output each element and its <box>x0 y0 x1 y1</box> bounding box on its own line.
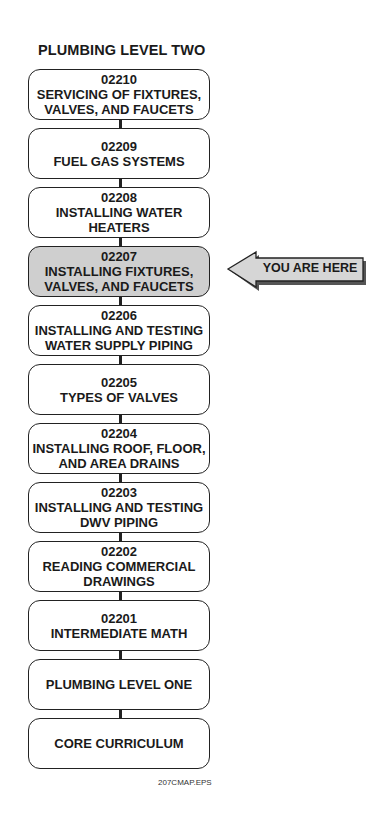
module-box: CORE CURRICULUM <box>28 718 210 769</box>
module-box: 02206INSTALLING AND TESTINGWATER SUPPLY … <box>28 305 210 356</box>
module-title-line: VALVES, AND FAUCETS <box>44 279 193 294</box>
module-box: PLUMBING LEVEL ONE <box>28 659 210 710</box>
module-box: 02210SERVICING OF FIXTURES,VALVES, AND F… <box>28 69 210 120</box>
module-code: 02205 <box>101 375 137 390</box>
module-box: 02209FUEL GAS SYSTEMS <box>28 128 210 179</box>
module-box: 02202READING COMMERCIALDRAWINGS <box>28 541 210 592</box>
module-title-line: VALVES, AND FAUCETS <box>44 102 193 117</box>
module-code: 02208 <box>101 190 137 205</box>
module-title-line: PLUMBING LEVEL ONE <box>46 677 192 692</box>
module-code: 02207 <box>101 249 137 264</box>
module-title-line: INSTALLING AND TESTING <box>35 323 203 338</box>
file-label: 207CMAP.EPS <box>158 778 212 787</box>
module-title-line: INSTALLING WATER <box>56 205 183 220</box>
module-title-line: INSTALLING FIXTURES, <box>45 264 194 279</box>
module-title-line: INSTALLING AND TESTING <box>35 500 203 515</box>
module-title-line: INTERMEDIATE MATH <box>51 626 188 641</box>
module-box: 02203INSTALLING AND TESTINGDWV PIPING <box>28 482 210 533</box>
module-code: 02202 <box>101 544 137 559</box>
module-title-line: CORE CURRICULUM <box>54 736 183 751</box>
module-title-line: WATER SUPPLY PIPING <box>45 338 193 353</box>
module-code: 02201 <box>101 611 137 626</box>
module-title-line: FUEL GAS SYSTEMS <box>53 154 184 169</box>
module-title-line: INSTALLING ROOF, FLOOR, <box>32 441 205 456</box>
module-title-line: HEATERS <box>88 220 149 235</box>
you-are-here-label: YOU ARE HERE <box>258 261 362 275</box>
module-code: 02206 <box>101 308 137 323</box>
module-code: 02209 <box>101 139 137 154</box>
module-title-line: DRAWINGS <box>83 574 155 589</box>
module-code: 02203 <box>101 485 137 500</box>
module-box: 02204INSTALLING ROOF, FLOOR,AND AREA DRA… <box>28 423 210 474</box>
module-box: 02208INSTALLING WATERHEATERS <box>28 187 210 238</box>
module-box-current: 02207INSTALLING FIXTURES,VALVES, AND FAU… <box>28 246 210 297</box>
module-title-line: READING COMMERCIAL <box>42 559 195 574</box>
module-title-line: DWV PIPING <box>80 515 158 530</box>
module-title-line: SERVICING OF FIXTURES, <box>37 87 201 102</box>
diagram-title: PLUMBING LEVEL TWO <box>38 42 205 58</box>
module-box: 02201INTERMEDIATE MATH <box>28 600 210 651</box>
module-box: 02205TYPES OF VALVES <box>28 364 210 415</box>
module-code: 02204 <box>101 426 137 441</box>
module-code: 02210 <box>101 72 137 87</box>
module-title-line: AND AREA DRAINS <box>58 456 179 471</box>
module-title-line: TYPES OF VALVES <box>60 390 178 405</box>
